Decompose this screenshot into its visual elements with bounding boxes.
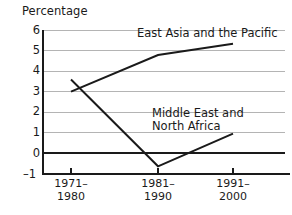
series-label-middle-east-line-1: Middle East and [152,107,244,120]
x-tick-label-1971-1980-line-2: 1980 [36,191,106,204]
x-tick-label-1991-2000-line-2: 2000 [198,191,268,204]
x-tick-label-1971-1980-line-1: 1971– [36,178,106,191]
chart-container: Percentage 6 5 4 3 2 1 0 –1 [0,0,292,215]
series-label-east-asia-line-1: East Asia and the Pacific [137,27,278,40]
x-tick-label-1991-2000: 1991– 2000 [198,178,268,203]
x-tick-label-1971-1980: 1971– 1980 [36,178,106,203]
x-tick-label-1981-1990-line-1: 1981– [123,178,193,191]
x-tick-label-1981-1990-line-2: 1990 [123,191,193,204]
x-tick-label-1981-1990: 1981– 1990 [123,178,193,203]
x-tick-label-1991-2000-line-1: 1991– [198,178,268,191]
series-label-east-asia-and-the-pacific: East Asia and the Pacific [137,27,278,40]
series-label-middle-east-line-2: North Africa [152,120,244,133]
series-label-middle-east-and-north-africa: Middle East and North Africa [152,107,244,132]
